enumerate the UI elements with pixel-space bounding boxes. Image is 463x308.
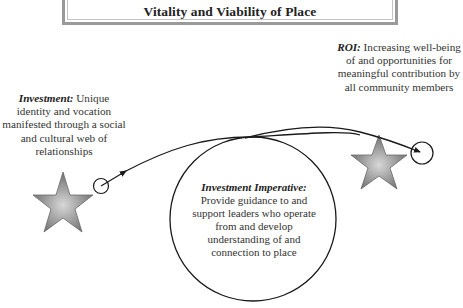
roi-heading: ROI: [337,41,361,53]
star-icon [33,172,93,232]
imperative-label: Investment Imperative: Provide guidance … [190,181,318,259]
investment-label: Investment: Unique identity and vocation… [2,92,126,158]
imperative-text: Provide guidance to and support leaders … [192,194,316,258]
curved-arrow [101,171,126,186]
roi-label: ROI: Increasing well-being of and opport… [334,41,463,94]
curved-arrow [124,133,360,172]
investment-heading: Investment: [19,92,74,104]
imperative-heading: Investment Imperative: [201,181,306,193]
star-icon [351,135,407,189]
circle-node [411,142,433,164]
